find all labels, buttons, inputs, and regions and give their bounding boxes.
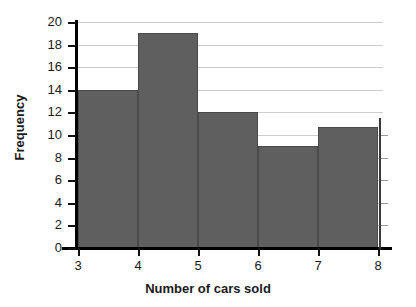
x-tick-label: 8 <box>363 258 393 273</box>
y-tick-label: 12 <box>34 104 62 119</box>
gridline <box>78 45 383 46</box>
bar <box>198 112 258 248</box>
gridline <box>78 22 383 23</box>
y-tick-mark <box>68 90 76 92</box>
y-tick-label-wrap: 12 <box>34 112 62 113</box>
bar <box>258 146 318 248</box>
right-tick-mark <box>381 225 388 226</box>
right-tick-mark <box>381 203 388 204</box>
x-tick-label: 4 <box>123 258 153 273</box>
x-tick-mark <box>78 248 80 256</box>
gridline <box>78 67 383 68</box>
y-tick-label: 18 <box>34 37 62 52</box>
y-tick-mark <box>68 135 76 137</box>
bar <box>138 33 198 248</box>
plot-area <box>78 22 378 248</box>
y-tick-label: 2 <box>34 217 62 232</box>
x-tick-label: 6 <box>243 258 273 273</box>
x-tick-mark <box>318 248 320 256</box>
y-tick-label-wrap: 18 <box>34 45 62 46</box>
y-tick-label-wrap: 2 <box>34 225 62 226</box>
right-axis-line <box>379 118 381 250</box>
y-tick-mark <box>68 22 76 24</box>
y-tick-label-wrap: 14 <box>34 90 62 91</box>
y-tick-mark <box>68 180 76 182</box>
y-tick-mark <box>68 112 76 114</box>
bar <box>318 127 378 248</box>
y-tick-label: 0 <box>34 240 62 255</box>
right-tick-mark <box>381 135 388 136</box>
y-tick-label: 16 <box>34 59 62 74</box>
right-tick-mark <box>381 158 388 159</box>
x-tick-mark <box>378 248 380 256</box>
y-tick-label-wrap: 4 <box>34 203 62 204</box>
x-tick-label: 7 <box>303 258 333 273</box>
x-tick-label: 5 <box>183 258 213 273</box>
y-tick-mark <box>68 158 76 160</box>
y-tick-label-wrap: 0 <box>34 248 62 249</box>
y-tick-mark <box>68 67 76 69</box>
y-tick-label: 6 <box>34 172 62 187</box>
y-tick-label-wrap: 6 <box>34 180 62 181</box>
y-tick-mark <box>68 248 76 250</box>
y-tick-label-wrap: 20 <box>34 22 62 23</box>
right-tick-mark <box>381 180 388 181</box>
y-tick-label: 10 <box>34 127 62 142</box>
x-tick-label: 3 <box>63 258 93 273</box>
y-axis-title: Frequency <box>12 68 27 188</box>
y-tick-label-wrap: 8 <box>34 158 62 159</box>
x-tick-mark <box>258 248 260 256</box>
x-tick-mark <box>198 248 200 256</box>
y-tick-label-wrap: 10 <box>34 135 62 136</box>
y-tick-mark <box>68 45 76 47</box>
y-tick-label: 20 <box>34 14 62 29</box>
x-tick-mark <box>138 248 140 256</box>
bar <box>78 90 138 248</box>
y-tick-label: 8 <box>34 150 62 165</box>
y-tick-label-wrap: 16 <box>34 67 62 68</box>
x-axis-line <box>62 247 392 250</box>
histogram-chart: Frequency Number of cars sold 0246810121… <box>0 0 416 307</box>
y-tick-mark <box>68 225 76 227</box>
y-tick-label: 14 <box>34 82 62 97</box>
x-axis-title: Number of cars sold <box>0 281 416 296</box>
y-tick-mark <box>68 203 76 205</box>
y-tick-label: 4 <box>34 195 62 210</box>
